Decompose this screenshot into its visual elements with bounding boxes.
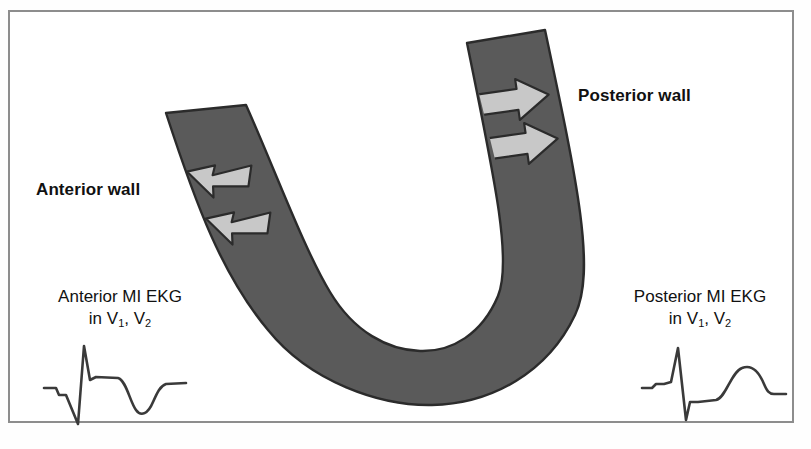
posterior-lead-2: 2 — [725, 317, 731, 329]
anterior-lead-1: 1 — [118, 317, 124, 329]
page-bleed-text — [30, 430, 770, 444]
anterior-mi-ekg-tracing — [40, 340, 190, 428]
posterior-mi-ekg-tracing — [638, 340, 788, 428]
anterior-ekg-caption-line1: Anterior MI EKG — [20, 286, 220, 308]
figure-root: Anterior wall Posterior wall Anterior MI… — [0, 0, 811, 449]
posterior-lead-separator: , V — [704, 309, 725, 328]
anterior-lead-separator: , V — [124, 309, 145, 328]
posterior-lead-1: 1 — [698, 317, 704, 329]
anterior-ekg-caption: Anterior MI EKG in V1, V2 — [20, 286, 220, 330]
anterior-lead-prefix: in V — [89, 309, 118, 328]
posterior-ekg-caption-line2: in V1, V2 — [600, 308, 800, 330]
posterior-lead-prefix: in V — [669, 309, 698, 328]
anterior-wall-label: Anterior wall — [36, 180, 140, 200]
anterior-ekg-caption-line2: in V1, V2 — [20, 308, 220, 330]
posterior-wall-label: Posterior wall — [578, 86, 691, 106]
anterior-lead-2: 2 — [145, 317, 151, 329]
posterior-ekg-caption-line1: Posterior MI EKG — [600, 286, 800, 308]
posterior-ekg-caption: Posterior MI EKG in V1, V2 — [600, 286, 800, 330]
